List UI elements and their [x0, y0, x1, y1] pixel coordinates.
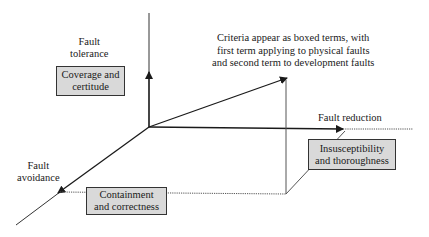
coverage-certitude-box: Coverage and certitude [56, 66, 125, 96]
criteria-note-line2: first term applying to physical faults [212, 45, 374, 58]
fault-tolerance-label-line1: Fault [70, 36, 108, 48]
criteria-note: Criteria appear as boxed terms, with fir… [212, 32, 374, 70]
containment-box-line1: Containment [99, 189, 153, 201]
criteria-vector [149, 78, 287, 127]
fault-reduction-label-text: Fault reduction [318, 112, 382, 123]
containment-correctness-box: Containment and correctness [86, 187, 167, 215]
fault-reduction-arrow [149, 127, 343, 129]
insusceptibility-thoroughness-box: Insusceptibility and thoroughness [308, 139, 396, 170]
fault-avoidance-label-line2: avoidance [17, 172, 60, 184]
fault-tolerance-label-line2: tolerance [70, 48, 108, 60]
containment-box-line2: and correctness [94, 201, 159, 213]
coverage-box-line1: Coverage and [61, 69, 119, 81]
insusceptibility-box-line2: and thoroughness [315, 155, 389, 167]
insusceptibility-box-line1: Insusceptibility [320, 143, 385, 155]
criteria-note-line1: Criteria appear as boxed terms, with [212, 32, 374, 45]
fault-avoidance-label-line1: Fault [17, 160, 60, 172]
fault-reduction-label: Fault reduction [318, 112, 382, 124]
fault-avoidance-arrow [58, 127, 149, 193]
fault-tolerance-label: Fault tolerance [70, 36, 108, 60]
fault-avoidance-label: Fault avoidance [17, 160, 60, 184]
criteria-note-line3: and second term to development faults [212, 57, 374, 70]
coverage-box-line2: certitude [72, 81, 109, 93]
fault-avoidance-axis [16, 192, 60, 225]
